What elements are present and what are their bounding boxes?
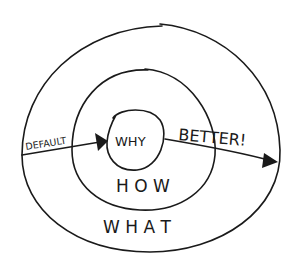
better-label: BETTER! <box>178 125 247 150</box>
default-arrowhead-icon <box>95 133 108 151</box>
how-label: H O W <box>116 176 170 196</box>
golden-circle-diagram: DEFAULT WHY BETTER! H O W W H A T <box>0 0 301 271</box>
default-label: DEFAULT <box>25 135 68 152</box>
why-label: WHY <box>115 134 146 149</box>
better-arrowhead-icon <box>262 153 278 168</box>
what-label: W H A T <box>103 217 171 237</box>
